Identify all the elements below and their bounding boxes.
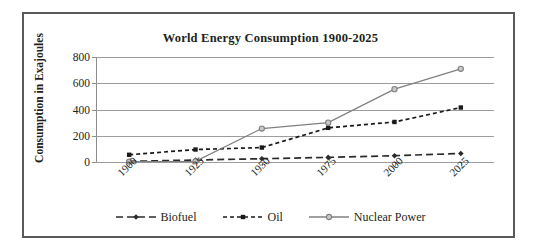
series-oil — [127, 105, 463, 157]
chart-frame: World Energy Consumption 1900-2025 Consu… — [22, 12, 515, 238]
y-axis-title: Consumption in Exajoules — [33, 23, 45, 173]
legend-item-nuclear-power[interactable]: Nuclear Power — [309, 211, 426, 223]
chart-screenshot: World Energy Consumption 1900-2025 Consu… — [0, 0, 537, 251]
legend-item-oil[interactable]: Oil — [223, 211, 283, 223]
data-point-marker — [326, 126, 330, 130]
series-line — [129, 153, 461, 161]
series-line — [129, 69, 461, 162]
series-lines — [96, 57, 494, 162]
data-point-marker — [459, 105, 463, 109]
y-tick-label: 200 — [73, 130, 90, 142]
series-nuclear-power — [127, 66, 464, 164]
series-line — [129, 108, 461, 155]
legend-swatch-icon — [116, 211, 156, 223]
data-point-marker — [392, 87, 397, 92]
data-point-marker — [326, 214, 331, 219]
data-point-marker — [133, 214, 139, 220]
y-tick-label: 0 — [84, 156, 90, 168]
data-point-marker — [326, 120, 331, 125]
data-point-marker — [260, 145, 264, 149]
y-tick-label: 400 — [73, 104, 90, 116]
plot-area: 0200400600800 190019251950197520002025 — [96, 57, 494, 162]
legend-swatch-icon — [223, 211, 263, 223]
legend-label: Nuclear Power — [354, 211, 426, 223]
legend-swatch-icon — [309, 211, 349, 223]
y-tick-label: 800 — [73, 51, 90, 63]
chart-legend: BiofuelOilNuclear Power — [24, 211, 517, 223]
legend-label: Oil — [268, 211, 283, 223]
data-point-marker — [240, 215, 244, 219]
chart-title: World Energy Consumption 1900-2025 — [24, 31, 517, 46]
legend-item-biofuel[interactable]: Biofuel — [116, 211, 197, 223]
data-point-marker — [259, 126, 264, 131]
y-tick-label: 600 — [73, 77, 90, 89]
data-point-marker — [458, 66, 463, 71]
data-point-marker — [392, 120, 396, 124]
legend-label: Biofuel — [161, 211, 197, 223]
data-point-marker — [193, 147, 197, 151]
y-tick-mark — [92, 162, 96, 163]
